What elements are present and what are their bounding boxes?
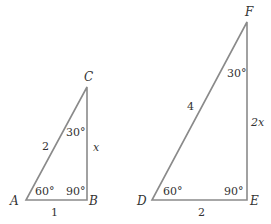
- triangle-abc: [26, 87, 87, 200]
- angle-d-label: 60°: [163, 185, 183, 198]
- vertex-a-label: A: [9, 194, 19, 208]
- angle-f-label: 30°: [227, 67, 247, 80]
- triangle-def: [152, 22, 247, 200]
- side-ef-label: 2x: [250, 116, 265, 129]
- diagram-canvas: A B C 60° 90° 30° 2 1 x D E F 60° 90° 30…: [0, 0, 271, 224]
- side-bc-label: x: [93, 141, 100, 154]
- vertex-c-label: C: [84, 70, 93, 84]
- side-ab-label: 1: [51, 206, 58, 219]
- similar-triangles-figure: A B C 60° 90° 30° 2 1 x D E F 60° 90° 30…: [0, 0, 271, 224]
- vertex-d-label: D: [136, 194, 147, 208]
- angle-c-label: 30°: [66, 126, 86, 139]
- side-df-label: 4: [187, 100, 194, 113]
- angle-e-label: 90°: [224, 185, 244, 198]
- angle-a-label: 60°: [35, 185, 55, 198]
- side-ac-label: 2: [42, 140, 49, 153]
- vertex-e-label: E: [249, 194, 259, 208]
- vertex-b-label: B: [88, 194, 98, 208]
- vertex-f-label: F: [244, 5, 254, 19]
- side-de-label: 2: [198, 206, 205, 219]
- angle-b-label: 90°: [66, 185, 86, 198]
